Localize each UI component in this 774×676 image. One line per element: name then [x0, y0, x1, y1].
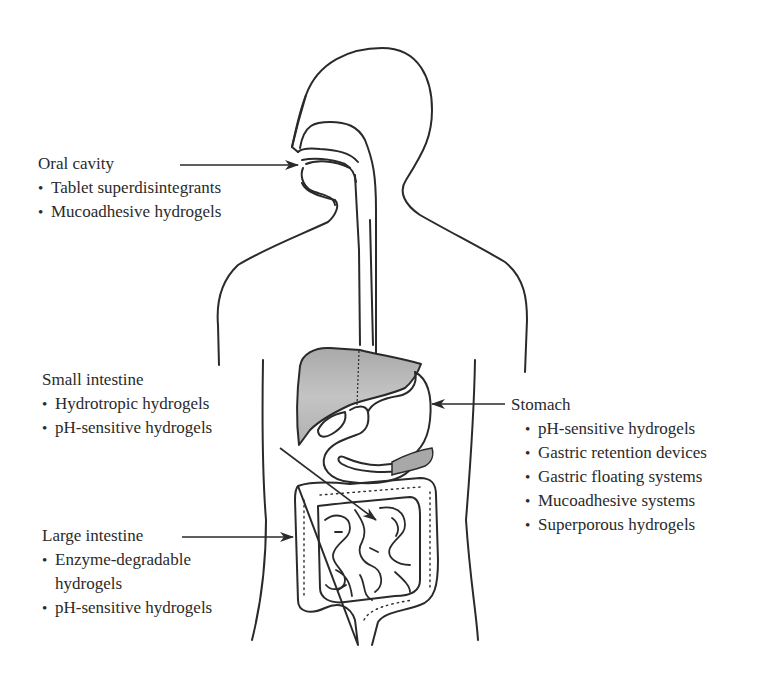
torso-right-side [466, 360, 478, 640]
large-intestine-label: Large intestine Enzyme-degradable hydrog… [42, 524, 212, 620]
liver [297, 348, 421, 445]
body-outline [292, 48, 527, 372]
colon-outer [295, 478, 438, 645]
stomach-title: Stomach [511, 393, 707, 417]
list-item: Superporous hydrogels [525, 513, 707, 537]
list-item: pH-sensitive hydrogels [42, 596, 212, 620]
stomach-list: pH-sensitive hydrogels Gastric retention… [525, 417, 707, 537]
large-intestine-title: Large intestine [42, 524, 212, 548]
oral-cavity-list: Tablet superdisintegrants Mucoadhesive h… [38, 176, 221, 224]
list-item: pH-sensitive hydrogels [42, 416, 212, 440]
esophagus-left [355, 175, 360, 345]
body-outline-left-shoulder [218, 183, 338, 365]
list-item: Enzyme-degradable hydrogels [42, 548, 212, 596]
small-intestine-coils [325, 507, 410, 600]
list-item: Mucoadhesive hydrogels [38, 200, 221, 224]
large-intestine-list: Enzyme-degradable hydrogels pH-sensitive… [42, 548, 212, 620]
list-item: Tablet superdisintegrants [38, 176, 221, 200]
list-item: pH-sensitive hydrogels [525, 417, 707, 441]
small-intestine-list: Hydrotropic hydrogels pH-sensitive hydro… [42, 392, 212, 440]
esophagus-right [370, 220, 373, 345]
colon-inner [318, 497, 420, 602]
stomach-label: Stomach pH-sensitive hydrogels Gastric r… [511, 393, 707, 537]
oral-cavity-label: Oral cavity Tablet superdisintegrants Mu… [38, 152, 221, 224]
list-item: Gastric floating systems [525, 465, 707, 489]
torso-left-side [252, 360, 266, 640]
face-outline [292, 95, 306, 152]
small-intestine-label: Small intestine Hydrotropic hydrogels pH… [42, 368, 212, 440]
pancreas [392, 448, 433, 475]
list-item: Hydrotropic hydrogels [42, 392, 212, 416]
small-intestine-title: Small intestine [42, 368, 212, 392]
oral-cavity-title: Oral cavity [38, 152, 221, 176]
list-item: Mucoadhesive systems [525, 489, 707, 513]
list-item: Gastric retention devices [525, 441, 707, 465]
